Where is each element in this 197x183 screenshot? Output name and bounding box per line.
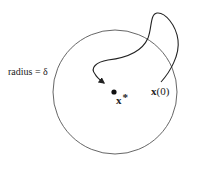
- equilibrium-label: x*: [116, 91, 129, 106]
- initial-state-label: x(0): [151, 85, 170, 98]
- trajectory-curve: [93, 13, 178, 83]
- stability-diagram: radius = δ x* x(0): [0, 0, 197, 183]
- radius-label: radius = δ: [8, 66, 48, 77]
